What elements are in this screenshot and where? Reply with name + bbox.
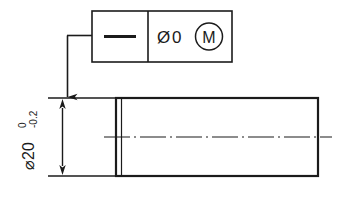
nominal-diameter-text: ⌀20 — [20, 142, 37, 170]
drawing-vector-layer: Ø 0 M — [0, 0, 345, 200]
feature-control-frame[interactable]: Ø 0 M — [92, 11, 232, 62]
mmc-modifier-letter: M — [202, 29, 215, 46]
lower-tolerance-text: -0.2 — [28, 110, 39, 128]
tolerance-value-text: 0 — [172, 28, 181, 47]
dimension-text-group: ⌀20 0 -0.2 — [17, 110, 39, 170]
dimension-arrow-top — [59, 99, 65, 109]
diameter-dimension-line — [59, 99, 65, 175]
engineering-drawing-canvas: Ø 0 M — [0, 0, 345, 200]
diameter-zone-symbol-icon: Ø — [157, 28, 170, 47]
upper-tolerance-text: 0 — [17, 122, 28, 128]
dimension-arrow-bottom — [59, 165, 65, 175]
cylindrical-part-side-view — [104, 98, 332, 176]
leader-line — [67, 36, 92, 98]
